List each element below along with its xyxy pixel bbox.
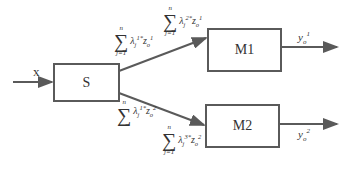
edge-s-m2-source-label: n ∑ λj1*zo2	[117, 99, 156, 124]
node-m2-label: M2	[233, 118, 252, 134]
edge-s-m1-target-label: n ∑ j=1 λj2*zo1	[163, 5, 202, 37]
node-m2: M2	[205, 104, 280, 148]
sigma-icon: ∑	[162, 131, 176, 149]
node-s: S	[53, 63, 120, 102]
node-m1-label: M1	[235, 42, 254, 58]
m2-output-label: yo2	[298, 127, 310, 143]
node-m1: M1	[207, 28, 282, 72]
edge-s-m2-target-label: n ∑ j=1 λj3*zo2	[162, 124, 201, 156]
input-label: x	[33, 64, 40, 80]
m1-output-label: yo1	[298, 30, 310, 46]
sigma-icon: ∑	[163, 12, 177, 30]
sigma-icon: ∑	[117, 106, 131, 124]
edge-s-m1-source-label: n ∑ j=1 λj1*zo1	[114, 25, 153, 57]
sigma-icon: ∑	[114, 32, 128, 50]
node-s-label: S	[83, 75, 91, 91]
